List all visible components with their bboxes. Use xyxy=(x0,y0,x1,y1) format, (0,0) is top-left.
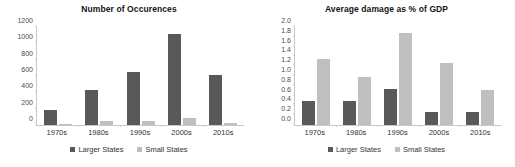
bar-group xyxy=(295,27,336,125)
y-axis-tick-label: 1.6 xyxy=(281,36,295,43)
bar[interactable] xyxy=(317,59,330,125)
legend-swatch-icon xyxy=(328,147,333,152)
x-axis-tick-label: 2000s xyxy=(418,128,459,137)
bar-group xyxy=(120,27,161,125)
legend-item[interactable]: Small States xyxy=(395,145,445,154)
x-axis-labels: 1970s1980s1990s2000s2010s xyxy=(36,128,244,137)
x-axis-tick-label: 1970s xyxy=(294,128,335,137)
y-axis-tick-label: 1000 xyxy=(17,33,37,40)
y-axis-tick-label: 600 xyxy=(21,66,37,73)
x-axis-tick-label: 1980s xyxy=(335,128,376,137)
y-axis-tick-label: 0.4 xyxy=(281,95,295,102)
y-axis-tick-label: 400 xyxy=(21,82,37,89)
plot-area-wrapper: 0.00.20.40.60.81.01.21.41.61.82.0 1970s1… xyxy=(258,0,515,167)
legend-label: Larger States xyxy=(336,145,381,154)
bar[interactable] xyxy=(59,124,72,125)
bar[interactable] xyxy=(302,101,315,125)
bar[interactable] xyxy=(209,75,222,125)
bar-groups xyxy=(295,27,501,125)
bar[interactable] xyxy=(343,101,356,125)
bar[interactable] xyxy=(100,121,113,125)
legend-swatch-icon xyxy=(395,147,400,152)
bar-group xyxy=(161,27,202,125)
bar[interactable] xyxy=(127,72,140,125)
y-axis-tick-label: 800 xyxy=(21,49,37,56)
legend-item[interactable]: Larger States xyxy=(328,145,381,154)
chart-legend: Larger StatesSmall States xyxy=(258,145,515,154)
bar-group xyxy=(419,27,460,125)
bar[interactable] xyxy=(44,110,57,125)
plot-area: 020040060080010001200 xyxy=(36,27,244,126)
y-axis-tick-label: 0.6 xyxy=(281,85,295,92)
bar-groups xyxy=(37,27,244,125)
y-axis-tick-label: 0 xyxy=(29,115,37,122)
bar[interactable] xyxy=(358,77,371,126)
bar-group xyxy=(336,27,377,125)
dual-chart-figure: Number of Occurences 0200400600800100012… xyxy=(0,0,515,167)
x-axis-tick-label: 1990s xyxy=(377,128,418,137)
bar[interactable] xyxy=(466,112,479,125)
legend-item[interactable]: Larger States xyxy=(70,145,123,154)
x-axis-tick-label: 1980s xyxy=(78,128,120,137)
bar[interactable] xyxy=(384,89,397,125)
legend-label: Larger States xyxy=(78,145,123,154)
y-axis-tick-label: 0.0 xyxy=(281,115,295,122)
y-axis-tick-label: 1.8 xyxy=(281,26,295,33)
bar[interactable] xyxy=(183,118,196,125)
bar[interactable] xyxy=(142,121,155,125)
y-axis-tick-label: 2.0 xyxy=(281,17,295,24)
plot-area-wrapper: 020040060080010001200 1970s1980s1990s200… xyxy=(0,0,258,167)
x-axis-tick-label: 2000s xyxy=(161,128,203,137)
x-axis-tick-label: 2010s xyxy=(460,128,501,137)
legend-swatch-icon xyxy=(137,147,142,152)
y-axis-tick-label: 0.2 xyxy=(281,105,295,112)
bar[interactable] xyxy=(85,90,98,125)
chart-legend: Larger StatesSmall States xyxy=(0,145,258,154)
legend-label: Small States xyxy=(403,145,445,154)
x-axis-tick-label: 2010s xyxy=(202,128,244,137)
bar[interactable] xyxy=(399,33,412,125)
chart-panel-occurrences: Number of Occurences 0200400600800100012… xyxy=(0,0,258,167)
bar-group xyxy=(78,27,119,125)
y-axis-tick-label: 1.2 xyxy=(281,56,295,63)
legend-swatch-icon xyxy=(70,147,75,152)
y-axis-tick-label: 1200 xyxy=(17,17,37,24)
legend-item[interactable]: Small States xyxy=(137,145,187,154)
legend-label: Small States xyxy=(145,145,187,154)
bar[interactable] xyxy=(224,123,237,125)
plot-area: 0.00.20.40.60.81.01.21.41.61.82.0 xyxy=(294,27,501,126)
y-axis-tick-label: 0.8 xyxy=(281,75,295,82)
y-axis-tick-label: 1.0 xyxy=(281,66,295,73)
bar[interactable] xyxy=(481,90,494,125)
chart-panel-damage: Average damage as % of GDP 0.00.20.40.60… xyxy=(258,0,515,167)
y-axis-tick-label: 1.4 xyxy=(281,46,295,53)
bar-group xyxy=(203,27,244,125)
bar-group xyxy=(460,27,501,125)
bar[interactable] xyxy=(425,112,438,125)
bar[interactable] xyxy=(440,63,453,125)
y-axis-tick-label: 200 xyxy=(21,98,37,105)
bar-group xyxy=(37,27,78,125)
x-axis-labels: 1970s1980s1990s2000s2010s xyxy=(294,128,501,137)
x-axis-tick-label: 1970s xyxy=(36,128,78,137)
bar-group xyxy=(377,27,418,125)
bar[interactable] xyxy=(168,34,181,125)
x-axis-tick-label: 1990s xyxy=(119,128,161,137)
